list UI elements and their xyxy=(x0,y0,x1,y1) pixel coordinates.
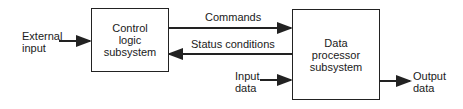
output-data-label: Output data xyxy=(413,70,446,94)
status-conditions-label: Status conditions xyxy=(191,38,275,50)
data-processor-block: Data processor subsystem xyxy=(292,9,380,100)
control-logic-block: Control logic subsystem xyxy=(91,8,169,72)
control-logic-label: Control logic subsystem xyxy=(104,22,157,58)
input-data-label: Input data xyxy=(235,70,259,94)
commands-label: Commands xyxy=(205,11,261,23)
data-processor-label: Data processor subsystem xyxy=(310,37,363,73)
external-input-label: External input xyxy=(22,30,62,54)
